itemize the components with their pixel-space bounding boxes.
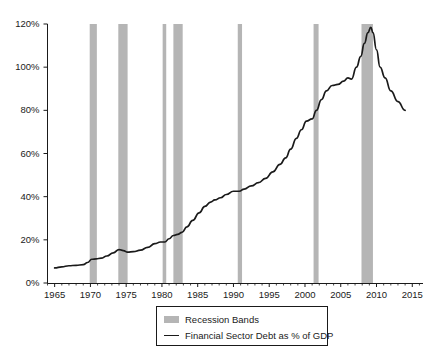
- x-axis-tick-label: 2000: [285, 290, 325, 300]
- recession-band: [118, 24, 127, 283]
- y-axis-tick-label: 120%: [0, 19, 40, 29]
- chart-container: 0%20%40%60%80%100%120% 19651970197519801…: [0, 0, 443, 352]
- y-axis-tick-label: 80%: [0, 105, 40, 115]
- x-axis-tick-label: 1980: [142, 290, 182, 300]
- chart-legend: Recession Bands Financial Sector Debt as…: [156, 306, 328, 346]
- recession-band: [173, 24, 182, 283]
- recession-band: [90, 24, 97, 283]
- y-axis-ticks: [44, 24, 48, 283]
- recession-band: [361, 24, 372, 283]
- x-axis-tick-label: 2015: [392, 290, 432, 300]
- y-axis-tick-label: 0%: [0, 278, 40, 288]
- x-axis-tick-label: 1970: [70, 290, 110, 300]
- legend-item-financial-sector-debt: Financial Sector Debt as % of GDP: [164, 328, 333, 342]
- y-axis-tick-label: 100%: [0, 62, 40, 72]
- data-line-financial-sector-debt: [55, 27, 405, 268]
- x-axis-tick-label: 1975: [106, 290, 146, 300]
- legend-label-recession-bands: Recession Bands: [185, 314, 259, 325]
- recession-band-swatch-icon: [164, 316, 179, 323]
- legend-item-recession-bands: Recession Bands: [164, 312, 259, 326]
- x-axis-tick-label: 2005: [321, 290, 361, 300]
- y-axis-tick-label: 60%: [0, 149, 40, 159]
- x-axis-tick-label: 1990: [213, 290, 253, 300]
- x-axis-tick-label: 1995: [249, 290, 289, 300]
- legend-label-financial-sector-debt: Financial Sector Debt as % of GDP: [185, 330, 333, 341]
- line-swatch-icon: [164, 335, 179, 336]
- recession-band: [314, 24, 319, 283]
- y-axis-tick-label: 20%: [0, 235, 40, 245]
- recession-band: [238, 24, 242, 283]
- y-axis-tick-label: 40%: [0, 192, 40, 202]
- recession-band: [163, 24, 167, 283]
- x-axis-tick-label: 2010: [357, 290, 397, 300]
- recession-bands-group: [90, 24, 373, 283]
- x-axis-tick-label: 1985: [178, 290, 218, 300]
- x-axis-tick-label: 1965: [35, 290, 75, 300]
